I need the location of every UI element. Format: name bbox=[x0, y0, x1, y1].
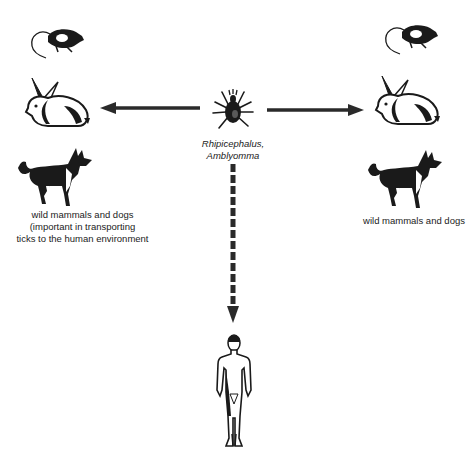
human-figure-icon bbox=[214, 334, 254, 452]
dashed-arrow-to-human bbox=[227, 164, 239, 323]
right-group-label: wild mammals and dogs bbox=[358, 215, 470, 227]
right-rat-icon bbox=[380, 18, 442, 56]
tick-species-label: Rhipicephalus, Amblyomma bbox=[183, 138, 283, 162]
right-rabbit-icon bbox=[370, 74, 444, 130]
arrow-to-left-group bbox=[100, 102, 200, 114]
right-dog-icon bbox=[366, 148, 444, 210]
left-dog-icon bbox=[16, 146, 94, 208]
left-rat-icon bbox=[26, 22, 88, 60]
left-rabbit-icon bbox=[20, 76, 94, 132]
left-group-label: wild mammals and dogs (important in tran… bbox=[10, 209, 155, 245]
arrow-to-right-group bbox=[267, 104, 364, 116]
tick-icon bbox=[210, 86, 256, 134]
